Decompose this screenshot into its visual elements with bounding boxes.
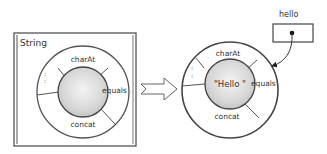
method-ellipsis: : (191, 72, 193, 79)
empty-core (58, 67, 108, 117)
reference-variable: hello (272, 10, 313, 66)
method-equals: equals (102, 86, 127, 95)
method-concat: concat (70, 120, 95, 129)
method-charat: charAt (216, 49, 241, 58)
class-name-label: String (20, 38, 47, 48)
method-equals: equals (251, 79, 276, 88)
method-concat: concat (214, 112, 239, 121)
method-ellipsis: : (191, 64, 193, 71)
transform-arrow-icon (141, 78, 177, 100)
string-value: "Hello " (214, 79, 246, 89)
string-class-ring: charAt equals concat : : (37, 46, 129, 138)
string-instance-ring: "Hello " charAt equals concat : : (182, 42, 278, 138)
string-object-diagram: String charAt equals concat : : "Hello "… (0, 0, 327, 154)
variable-name: hello (279, 10, 298, 19)
method-ellipsis: : (44, 77, 46, 84)
method-ellipsis: : (44, 70, 46, 77)
method-charat: charAt (71, 55, 96, 64)
